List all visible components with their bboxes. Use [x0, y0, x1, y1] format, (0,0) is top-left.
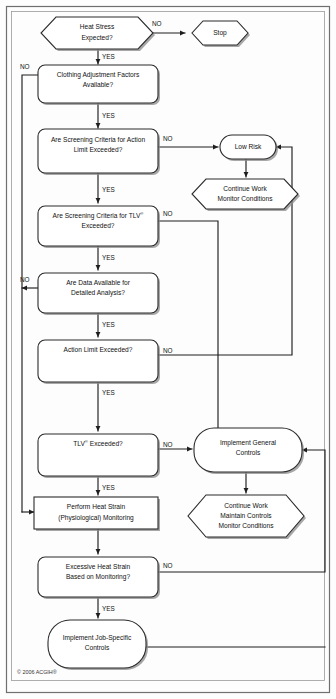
edge-label-heatstress-yes: YES [102, 53, 115, 60]
copyright-notice: © 2006 ACGIH® [17, 669, 57, 675]
node-excessive-heat-strain[interactable]: Excessive Heat Strain Based on Monitorin… [38, 557, 160, 599]
svg-text:TLV® Exceeded?: TLV® Exceeded? [73, 439, 123, 447]
node-label-line2: Expected? [81, 34, 112, 42]
node-label-line1: Continue Work [224, 502, 268, 509]
node-label-line2: Controls [85, 644, 110, 651]
edge-label-screenaction-yes: YES [102, 186, 115, 193]
flowchart-canvas: Heat Stress Expected? Stop Clothing Adju… [0, 0, 336, 699]
node-heat-stress-expected[interactable]: Heat Stress Expected? [41, 17, 155, 51]
edge-label-actionlimit-yes: YES [102, 389, 115, 396]
node-continue-maintain-monitor[interactable]: Continue Work Maintain Controls Monitor … [188, 495, 306, 539]
node-action-limit-exceeded[interactable]: Action Limit Exceeded? [38, 340, 160, 384]
edge-label-screentlv-yes: YES [102, 254, 115, 261]
node-label-stop: Stop [213, 29, 227, 37]
node-stop[interactable]: Stop [192, 21, 250, 47]
node-label-line2: Detailed Analysis? [71, 289, 125, 297]
node-label-line1: Implement General [220, 439, 277, 447]
edge-label-actionlimit-no: NO [163, 347, 173, 354]
node-label-line1: Heat Stress [80, 23, 115, 30]
node-label-line1: Are Screening Criteria for TLV [53, 212, 141, 220]
edge-label-excessive-yes: YES [102, 605, 115, 612]
node-continue-monitor[interactable]: Continue Work Monitor Conditions [192, 179, 300, 211]
node-label-line2: Limit Exceeded? [74, 146, 123, 153]
node-low-risk[interactable]: Low Risk [220, 135, 278, 161]
node-label-line1: Perform Heat Strain [67, 503, 126, 510]
node-label-line1: Are Data Available for [66, 279, 130, 286]
node-label-line1: Clothing Adjustment Factors [57, 71, 140, 79]
node-implement-job-specific[interactable]: Implement Job-Specific Controls [48, 620, 148, 670]
node-clothing-adjustment[interactable]: Clothing Adjustment Factors Available? [38, 65, 160, 105]
node-implement-general-controls[interactable]: Implement General Controls [194, 428, 304, 474]
node-label-line1: Excessive Heat Strain [66, 563, 131, 570]
node-label-low-risk: Low Risk [235, 143, 262, 150]
edge-label-clothing-no: NO [20, 63, 30, 70]
edge-label-heatstress-no: NO [152, 20, 162, 27]
node-label-line1: Continue Work [223, 185, 267, 192]
node-tlv-exceeded[interactable]: TLV® Exceeded? [38, 434, 160, 478]
edge-clothing-no [22, 75, 38, 512]
node-label-line2: Exceeded? [82, 222, 115, 229]
node-label-line2: Based on Monitoring? [66, 573, 130, 581]
node-screening-action-limit[interactable]: Are Screening Criteria for Action Limit … [38, 129, 160, 175]
edge-label-tlv-yes: YES [102, 484, 115, 491]
edge-label-screenaction-no: NO [163, 135, 173, 142]
node-label-line1: Implement Job-Specific [63, 634, 132, 642]
edge-label-clothing-yes: YES [102, 112, 115, 119]
node-screening-tlv[interactable]: Are Screening Criteria for TLV® Exceeded… [38, 206, 160, 248]
edge-label-excessive-no: NO [163, 562, 173, 569]
node-label-line2: Controls [236, 449, 261, 456]
node-label-line2: Available? [83, 81, 114, 88]
edge-actionlimit-no [158, 147, 292, 355]
node-label-tlv-pre: TLV [73, 440, 85, 447]
node-label-line1: Are Screening Criteria for Action [51, 136, 146, 144]
edge-label-screentlv-no: NO [163, 210, 173, 217]
edge-label-dataavail-yes: YES [102, 321, 115, 328]
node-label-tlv-post: Exceeded? [88, 440, 123, 447]
node-label-line3: Monitor Conditions [219, 522, 275, 529]
node-label-action-limit: Action Limit Exceeded? [64, 346, 133, 353]
node-perform-heat-strain[interactable]: Perform Heat Strain (Physiological) Moni… [34, 497, 160, 531]
node-label-line2: Maintain Controls [220, 512, 272, 519]
node-label-line2: Monitor Conditions [218, 195, 274, 202]
node-data-available[interactable]: Are Data Available for Detailed Analysis… [38, 273, 160, 315]
edge-screentlv-no [158, 221, 218, 438]
svg-text:Are Screening Criteria for TLV: Are Screening Criteria for TLV® [53, 211, 145, 220]
edge-label-dataavail-no: NO [20, 276, 30, 283]
node-label-line2: (Physiological) Monitoring [58, 514, 134, 522]
edge-label-tlv-no: NO [163, 441, 173, 448]
